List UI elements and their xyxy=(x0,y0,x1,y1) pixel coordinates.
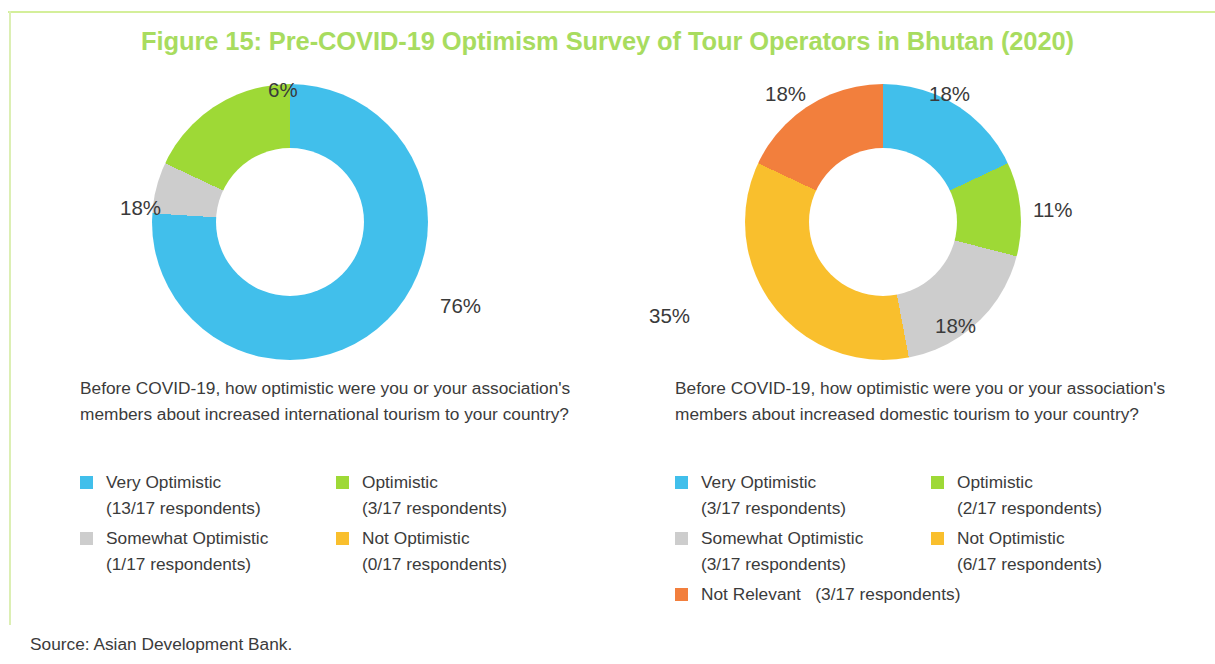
legend-swatch-somewhat-optimistic-icon xyxy=(80,532,93,545)
legend-label: Not Optimistic xyxy=(362,526,592,552)
donut-hole xyxy=(216,148,364,296)
donut-ring-domestic xyxy=(745,84,1021,360)
legend-domestic: Very Optimistic (3/17 respondents) Optim… xyxy=(675,470,1187,610)
donut-chart-international: 6% 18% 76% xyxy=(72,78,592,370)
legend-item-very-optimistic[interactable]: Very Optimistic (13/17 respondents) xyxy=(80,470,336,526)
legend-row: Somewhat Optimistic (3/17 respondents) N… xyxy=(675,526,1187,582)
legend-count: (3/17 respondents) xyxy=(815,584,960,604)
legend-item-not-optimistic[interactable]: Not Optimistic (0/17 respondents) xyxy=(336,526,592,582)
figure-title: Figure 15: Pre-COVID-19 Optimism Survey … xyxy=(0,27,1215,56)
legend-row: Not Relevant (3/17 respondents) xyxy=(675,582,1187,610)
legend-item-somewhat-optimistic[interactable]: Somewhat Optimistic (3/17 respondents) xyxy=(675,526,931,582)
legend-label: Very Optimistic xyxy=(701,470,931,496)
panels-container: 6% 18% 76% Before COVID-19, how optimist… xyxy=(0,78,1215,598)
legend-label: Somewhat Optimistic xyxy=(106,526,336,552)
legend-item-optimistic[interactable]: Optimistic (2/17 respondents) xyxy=(931,470,1187,526)
legend-label: Not Relevant xyxy=(701,584,801,604)
pct-label-optimistic: 11% xyxy=(1033,198,1073,222)
legend-label: Not Optimistic xyxy=(957,526,1187,552)
legend-item-somewhat-optimistic[interactable]: Somewhat Optimistic (1/17 respondents) xyxy=(80,526,336,582)
legend-item-not-optimistic[interactable]: Not Optimistic (6/17 respondents) xyxy=(931,526,1187,582)
pct-label-very-optimistic: 18% xyxy=(929,82,970,106)
legend-international: Very Optimistic (13/17 respondents) Opti… xyxy=(80,470,592,582)
legend-row: Very Optimistic (3/17 respondents) Optim… xyxy=(675,470,1187,526)
pct-label-somewhat-optimistic: 6% xyxy=(268,78,298,102)
question-text-domestic: Before COVID-19, how optimistic were you… xyxy=(675,376,1175,427)
figure-container: Figure 15: Pre-COVID-19 Optimism Survey … xyxy=(0,0,1215,664)
legend-swatch-not-relevant-icon xyxy=(675,588,688,601)
donut-ring-international xyxy=(152,84,428,360)
legend-label: Optimistic xyxy=(362,470,592,496)
pct-label-optimistic: 18% xyxy=(120,196,161,220)
legend-swatch-somewhat-optimistic-icon xyxy=(675,532,688,545)
legend-swatch-very-optimistic-icon xyxy=(80,476,93,489)
legend-item-very-optimistic[interactable]: Very Optimistic (3/17 respondents) xyxy=(675,470,931,526)
legend-item-optimistic[interactable]: Optimistic (3/17 respondents) xyxy=(336,470,592,526)
frame-top-rule xyxy=(8,11,1215,13)
legend-row: Very Optimistic (13/17 respondents) Opti… xyxy=(80,470,592,526)
question-text-international: Before COVID-19, how optimistic were you… xyxy=(80,376,580,427)
legend-label: Optimistic xyxy=(957,470,1187,496)
donut-chart-domestic: 18% 11% 18% 35% 18% xyxy=(667,78,1187,370)
source-note: Source: Asian Development Bank. xyxy=(30,634,292,655)
pct-label-somewhat-optimistic: 18% xyxy=(935,314,976,338)
legend-count: (3/17 respondents) xyxy=(362,496,592,522)
legend-count: (6/17 respondents) xyxy=(957,552,1187,578)
legend-swatch-optimistic-icon xyxy=(931,476,944,489)
legend-swatch-optimistic-icon xyxy=(336,476,349,489)
legend-swatch-very-optimistic-icon xyxy=(675,476,688,489)
donut-hole xyxy=(809,148,957,296)
legend-count: (1/17 respondents) xyxy=(106,552,336,578)
pct-label-not-relevant: 18% xyxy=(765,82,806,106)
legend-count: (0/17 respondents) xyxy=(362,552,592,578)
legend-count: (3/17 respondents) xyxy=(701,552,931,578)
legend-item-not-relevant[interactable]: Not Relevant (3/17 respondents) xyxy=(675,582,1187,610)
panel-domestic-tourism: 18% 11% 18% 35% 18% Before COVID-19, how… xyxy=(667,78,1187,370)
pct-label-very-optimistic: 76% xyxy=(440,294,481,318)
legend-count: (2/17 respondents) xyxy=(957,496,1187,522)
legend-row: Somewhat Optimistic (1/17 respondents) N… xyxy=(80,526,592,582)
legend-swatch-not-optimistic-icon xyxy=(931,532,944,545)
legend-label: Very Optimistic xyxy=(106,470,336,496)
legend-label: Somewhat Optimistic xyxy=(701,526,931,552)
legend-count: (13/17 respondents) xyxy=(106,496,336,522)
legend-count: (3/17 respondents) xyxy=(701,496,931,522)
pct-label-not-optimistic: 35% xyxy=(649,304,690,328)
legend-swatch-not-optimistic-icon xyxy=(336,532,349,545)
panel-international-tourism: 6% 18% 76% Before COVID-19, how optimist… xyxy=(72,78,592,370)
